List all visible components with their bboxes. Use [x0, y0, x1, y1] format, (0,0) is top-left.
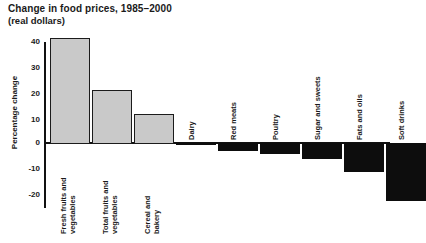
bar-soft-drinks[interactable]: [386, 143, 426, 201]
cat-label-fats-and-oils: Fats and oils: [356, 94, 365, 140]
cat-label-poultry: Poultry: [272, 114, 281, 140]
cat-label-dairy: Dairy: [188, 121, 197, 140]
cat-label-line2: bakery: [153, 196, 162, 234]
cat-label-red-meats: Red meats: [230, 102, 239, 140]
cat-label-soft-drinks: Soft drinks: [398, 101, 407, 140]
cat-label-line1: Poultry: [271, 114, 280, 140]
cat-label-line2: vegetables: [69, 177, 78, 234]
bar-dairy[interactable]: [176, 143, 216, 145]
chart-subtitle: (real dollars): [8, 15, 398, 27]
bar-cereal-and-bakery[interactable]: [134, 114, 174, 144]
cat-label-line1: Dairy: [187, 121, 196, 140]
cat-label-line1: Cereal and: [143, 196, 152, 234]
cat-label-line1: Total fruits and: [101, 180, 110, 234]
cat-label-sugar-and-sweets: Sugar and sweets: [314, 76, 323, 140]
bar-sugar-and-sweets[interactable]: [302, 143, 342, 159]
chart-header: Change in food prices, 1985–2000 (real d…: [8, 2, 398, 27]
cat-label-line2: vegetables: [111, 180, 120, 234]
cat-label-total-fruits-and-vegetables: Total fruits and vegetables: [102, 180, 119, 234]
cat-label-line1: Soft drinks: [397, 101, 406, 140]
cat-label-line1: Fats and oils: [355, 94, 364, 140]
bar-poultry[interactable]: [260, 143, 300, 154]
chart-plot-area: Percentage change 40 30 20 10 0 -10 -20 …: [0, 30, 408, 243]
cat-label-fresh-fruits-and-vegetables: Fresh fruits and vegetables: [60, 177, 77, 234]
bar-fresh-fruits-and-vegetables[interactable]: [50, 38, 90, 144]
page-title: Change in food prices, 1985–2000: [8, 2, 398, 15]
cat-label-line1: Fresh fruits and: [59, 177, 68, 234]
bar-red-meats[interactable]: [218, 143, 258, 151]
cat-label-cereal-and-bakery: Cereal and bakery: [144, 196, 161, 234]
bar-total-fruits-and-vegetables[interactable]: [92, 90, 132, 144]
cat-label-line1: Sugar and sweets: [313, 76, 322, 140]
cat-label-line1: Red meats: [229, 102, 238, 140]
bar-fats-and-oils[interactable]: [344, 143, 384, 172]
